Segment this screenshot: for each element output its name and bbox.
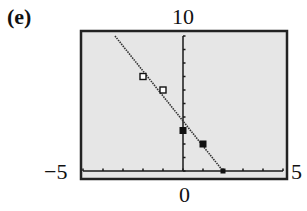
filled-square-marker: [180, 127, 187, 134]
filled-square-marker: [200, 141, 207, 148]
calculator-plot: [0, 0, 307, 211]
filled-square-marker: [221, 169, 226, 174]
open-square-marker: [140, 74, 146, 80]
open-square-marker: [160, 87, 166, 93]
